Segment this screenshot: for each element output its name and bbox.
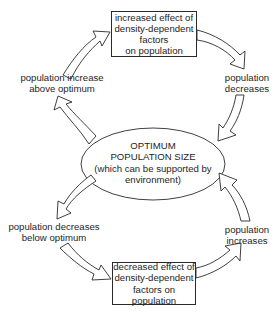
bottom-box-line-2: density-dependent [115,272,194,283]
upper-left-line-2: above optimum [12,83,112,94]
optimum-population-label: OPTIMUM POPULATION SIZE (which can be su… [88,140,218,186]
arrow-decreases-below-to-bottom-box-icon [60,243,111,280]
top-box-line-1: increased effect of [115,12,193,23]
bottom-box-decreased-effect: decreased effect of density-dependent fa… [112,262,196,305]
upper-right-line-1: population [216,72,278,83]
arrow-decreases-to-center-icon [218,95,244,141]
ellipse-line-2: POPULATION SIZE [88,151,218,162]
upper-left-line-1: population increase [12,72,112,83]
bottom-box-line-4: population [132,295,176,306]
label-population-decreases-below-optimum: population decreases below optimum [2,221,106,243]
label-population-increase-above-optimum: population increase above optimum [12,72,112,94]
arrow-bottom-box-to-increases-icon [196,243,241,278]
label-population-decreases: population decreases [216,72,278,94]
lower-right-line-2: increases [216,235,278,246]
arrow-center-to-increase-above-icon [54,96,96,144]
lower-right-line-1: population [216,224,278,235]
label-population-increases: population increases [216,224,278,246]
ellipse-line-3: (which can be supported by [88,163,218,174]
bottom-box-line-3: factors on [133,284,175,295]
arrow-increases-to-center-icon [219,173,250,221]
top-box-line-3: factors [140,34,169,45]
lower-left-line-2: below optimum [2,232,106,243]
top-box-line-2: density-dependent [115,23,194,34]
ellipse-line-1: OPTIMUM [88,140,218,151]
top-box-line-4: on population [125,45,183,56]
arrow-top-box-to-decreases-icon [197,30,245,69]
upper-right-line-2: decreases [216,83,278,94]
ellipse-line-4: environment) [88,174,218,185]
top-box-increased-effect: increased effect of density-dependent fa… [111,11,197,57]
bottom-box-line-1: decreased effect of [113,261,194,272]
lower-left-line-1: population decreases [2,221,106,232]
